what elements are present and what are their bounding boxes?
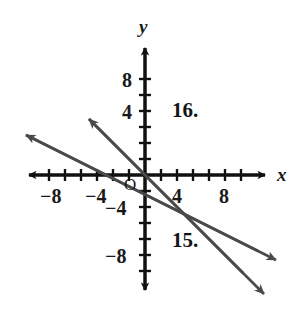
line-annotation-16: 16.	[172, 100, 198, 121]
origin-label: O	[124, 176, 136, 193]
x-tick-label-neg8: −8	[40, 186, 61, 206]
line-annotation-15: 15.	[172, 230, 198, 251]
x-tick-label-neg4: −4	[85, 186, 106, 206]
y-tick-label-neg8: −8	[105, 246, 126, 266]
y-tick-label-pos8: 8	[122, 70, 132, 90]
y-tick-label-pos4: 4	[122, 102, 132, 122]
x-tick-label-pos8: 8	[219, 186, 229, 206]
x-axis-name-label: x	[277, 165, 287, 184]
y-tick-label-neg4: −4	[105, 198, 126, 218]
graph-canvas	[0, 0, 302, 311]
x-tick-label-pos4: 4	[172, 186, 182, 206]
y-axis-name-label: y	[139, 17, 147, 36]
coordinate-plane-figure: x y O −8 −4 4 8 8 4 −4 −8 16. 15.	[0, 0, 302, 311]
line-15	[26, 135, 276, 260]
